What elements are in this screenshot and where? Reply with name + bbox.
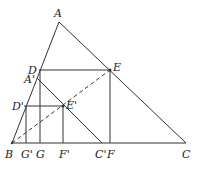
point-e1 [62, 105, 65, 108]
label-a: A [53, 7, 62, 20]
label-b: B [4, 148, 13, 161]
point-b [11, 142, 13, 144]
label-e: E [112, 61, 121, 74]
label-a1: A' [23, 73, 35, 86]
point-e [109, 69, 112, 72]
geometry-diagram: A D A' E D' E' B G' G F' C' F C [0, 0, 201, 169]
diagram-canvas: A D A' E D' E' B G' G F' C' F C [0, 0, 201, 169]
label-f1: F' [58, 148, 70, 161]
label-c1: C' [95, 148, 106, 161]
label-g: G [36, 148, 45, 161]
label-e1: E' [65, 99, 77, 112]
label-f: F [106, 148, 115, 161]
label-c: C [182, 148, 191, 161]
triangle-abc [12, 22, 186, 143]
label-g1: G' [21, 148, 33, 161]
label-d1: D' [11, 100, 24, 113]
